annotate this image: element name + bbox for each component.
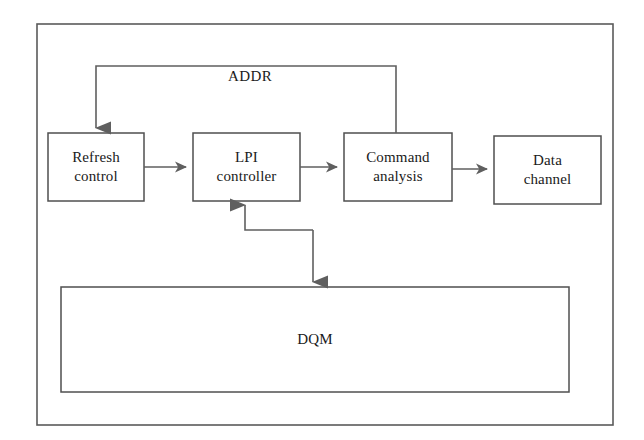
node-box-refresh-control[interactable] <box>48 133 144 201</box>
node-box-lpi-controller[interactable] <box>193 133 300 201</box>
diagram-svg <box>0 0 644 440</box>
edge-label-addr: ADDR <box>210 68 290 85</box>
node-box-dqm[interactable] <box>61 287 569 392</box>
node-box-data-channel[interactable] <box>494 136 601 204</box>
node-box-command-analysis[interactable] <box>344 133 452 201</box>
figure-canvas: Refresh control LPI controller Command a… <box>0 0 644 440</box>
edge-dqm-to-lpi <box>245 205 313 230</box>
